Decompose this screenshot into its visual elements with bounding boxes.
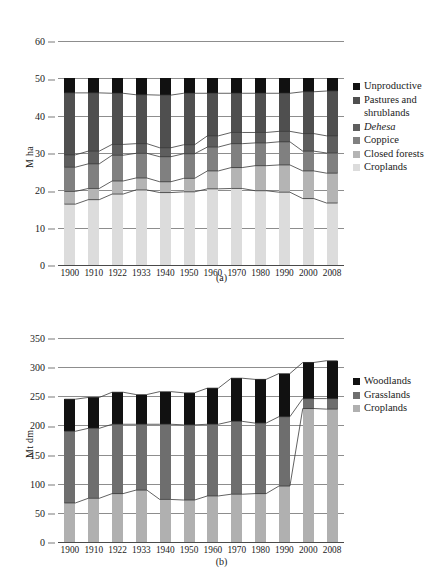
bar-segment-croplands	[327, 409, 338, 542]
bar-segment-croplands	[112, 494, 123, 542]
bar-segment-croplands	[112, 194, 123, 265]
legend-item-croplands[interactable]: Croplands	[353, 402, 411, 415]
bar-segment-dehesa	[303, 134, 314, 152]
bar-1933	[136, 338, 147, 542]
bar-segment-woodlands	[279, 374, 290, 417]
bar-segment-pastures-and-shrublands	[184, 93, 195, 145]
bar-1970	[231, 338, 242, 542]
bar-segment-croplands	[88, 200, 99, 265]
bar-1940	[160, 41, 171, 265]
tick-mark	[48, 397, 55, 398]
bar-segment-closed-forests	[327, 173, 338, 203]
x-axis-tick-label: 1900	[58, 268, 82, 278]
bar-segment-pastures-and-shrublands	[160, 95, 171, 148]
boundary-line-dehesa-top	[64, 131, 337, 155]
gridline	[58, 396, 344, 397]
bar-segment-croplands	[184, 500, 195, 542]
x-axis-tick-label: 1960	[201, 268, 225, 278]
legend-item-label: Pastures and	[364, 94, 417, 107]
bar-segment-unproductive	[160, 78, 171, 95]
y-axis-tick-label: 0	[0, 537, 55, 548]
bar-segment-woodlands	[184, 393, 195, 425]
legend-item-croplands[interactable]: Croplands	[353, 161, 424, 174]
bar-segment-croplands	[136, 490, 147, 542]
bar-2000	[303, 338, 314, 542]
tick-mark	[48, 368, 55, 369]
bar-segment-closed-forests	[184, 178, 195, 191]
legend-item-label: Unproductive	[364, 80, 422, 93]
legend-swatch-icon	[353, 83, 360, 90]
legend-swatch-icon	[353, 378, 360, 385]
bar-segment-coppice	[136, 153, 147, 178]
bar-segment-croplands	[88, 498, 99, 542]
bar-segment-pastures-and-shrublands	[231, 93, 242, 132]
legend-swatch-icon	[353, 405, 360, 412]
y-axis-tick-label: 50	[0, 73, 55, 84]
legend-item-pastures-and[interactable]: Pastures and	[353, 94, 424, 107]
bar-segment-grasslands	[279, 417, 290, 486]
bar-segment-coppice	[279, 142, 290, 165]
bar-segment-coppice	[88, 164, 99, 189]
bar-segment-coppice	[184, 154, 195, 179]
y-axis-tick-label: 350	[0, 333, 55, 344]
legend-item-coppice[interactable]: Coppice	[353, 134, 424, 147]
x-axis-tick-label: 2008	[320, 268, 344, 278]
gridline	[58, 513, 344, 514]
bar-segment-woodlands	[231, 378, 242, 421]
bar-segment-croplands	[279, 192, 290, 265]
panel-a-legend: UnproductivePastures andshrublandsDehesa…	[353, 80, 424, 175]
bar-segment-grasslands	[255, 423, 266, 494]
bar-segment-croplands	[231, 188, 242, 265]
legend-item-label: shrublands	[364, 107, 410, 120]
legend-item-label: Dehesa	[364, 121, 396, 134]
legend-item-label: Croplands	[364, 402, 407, 415]
bar-segment-unproductive	[255, 78, 266, 93]
figure-stacked-bar-charts: M ha (a) UnproductivePastures andshrubla…	[0, 0, 443, 571]
bar-segment-dehesa	[207, 136, 218, 147]
bar-segment-dehesa	[112, 144, 123, 155]
legend-swatch-icon	[353, 151, 360, 158]
y-axis-tick-label: 20	[0, 185, 55, 196]
bar-segment-woodlands	[160, 392, 171, 425]
x-axis-tick-label: 1922	[106, 545, 130, 555]
bar-segment-coppice	[160, 157, 171, 182]
bar-1922	[112, 338, 123, 542]
bar-1922	[112, 41, 123, 265]
bar-segment-dehesa	[184, 145, 195, 154]
legend-item-dehesa[interactable]: Dehesa	[353, 121, 424, 134]
bar-segment-woodlands	[207, 388, 218, 424]
legend-item-woodlands[interactable]: Woodlands	[353, 375, 411, 388]
bar-segment-croplands	[160, 193, 171, 265]
bar-segment-unproductive	[279, 78, 290, 93]
bar-segment-unproductive	[303, 78, 314, 91]
bar-segment-grasslands	[303, 399, 314, 409]
bar-segment-unproductive	[64, 78, 75, 93]
y-axis-tick-label: 250	[0, 391, 55, 402]
legend-item-closed-forests[interactable]: Closed forests	[353, 148, 424, 161]
bar-segment-croplands	[207, 496, 218, 542]
bar-segment-pastures-and-shrublands	[112, 93, 123, 144]
bar-segment-pastures-and-shrublands	[303, 92, 314, 134]
bar-segment-closed-forests	[136, 178, 147, 190]
legend-item-grasslands[interactable]: Grasslands	[353, 389, 411, 402]
bar-segment-closed-forests	[231, 168, 242, 189]
bar-segment-dehesa	[279, 131, 290, 141]
tick-mark	[48, 543, 55, 544]
gridline	[58, 190, 344, 191]
bar-segment-unproductive	[184, 78, 195, 93]
boundary-line-closed-forests-top	[64, 165, 337, 192]
bar-segment-unproductive	[88, 78, 99, 93]
legend-swatch-icon	[353, 124, 360, 131]
bar-segment-pastures-and-shrublands	[279, 93, 290, 131]
y-axis-tick-label: 300	[0, 362, 55, 373]
gridline	[58, 367, 344, 368]
y-axis-tick-label: 100	[0, 478, 55, 489]
legend-item-unproductive[interactable]: Unproductive	[353, 80, 424, 93]
tick-mark	[48, 266, 55, 267]
gridline	[58, 425, 344, 426]
bar-segment-grasslands	[327, 399, 338, 409]
gridline	[58, 78, 344, 79]
bar-segment-coppice	[303, 151, 314, 171]
bar-segment-coppice	[112, 155, 123, 181]
bar-segment-woodlands	[255, 379, 266, 423]
